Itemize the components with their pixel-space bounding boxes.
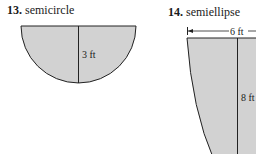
semicircle-radius-label: 3 ft (82, 49, 96, 60)
semicircle-figure: 3 ft (21, 26, 136, 83)
semiellipse-figure: 8 ft 6 ft (187, 26, 256, 155)
figures-canvas: 3 ft 8 ft 6 ft (0, 0, 256, 154)
semiellipse-depth-label: 8 ft (241, 92, 255, 103)
semiellipse-width-label: 6 ft (230, 26, 244, 37)
